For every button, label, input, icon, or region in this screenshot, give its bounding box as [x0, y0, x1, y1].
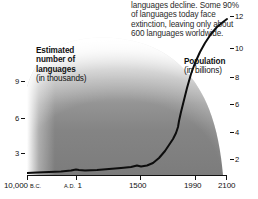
- left-axis-tick: 3: [15, 149, 26, 158]
- x-axis-tick: A.D. 1: [64, 181, 82, 190]
- population-label-line: Population: [184, 57, 225, 66]
- right-axis: 12 10 8 6 4 2: [227, 8, 258, 175]
- languages-population-chart: Even as population increases, languages …: [0, 0, 258, 199]
- population-series-label: Population (in billions): [184, 57, 225, 76]
- x-axis-tick: 2100: [218, 181, 235, 190]
- languages-label-line: languages: [36, 65, 86, 74]
- right-axis-tick: 10: [228, 44, 243, 53]
- right-axis-tick: 8: [228, 73, 239, 82]
- population-label-unit: (in billions): [184, 66, 225, 75]
- languages-label-unit: (in thousands): [36, 74, 86, 83]
- right-axis-tick: 12: [228, 12, 243, 21]
- languages-label-line: number of: [36, 55, 86, 64]
- x-axis-tick: 1990: [184, 181, 201, 190]
- left-axis: 9 6 3: [0, 27, 27, 175]
- left-axis-tick: 9: [15, 77, 26, 86]
- x-axis-tick: 1500: [129, 181, 146, 190]
- languages-series-label: Estimated number of languages (in thousa…: [36, 46, 86, 84]
- left-axis-tick: 6: [15, 114, 26, 123]
- right-axis-tick: 2: [228, 155, 239, 164]
- x-axis: 10,000 B.C. A.D. 1 1500 1990 2100: [0, 176, 258, 199]
- right-axis-tick: 6: [228, 100, 239, 109]
- languages-label-line: Estimated: [36, 46, 86, 55]
- x-axis-tick: 10,000 B.C.: [4, 181, 41, 190]
- right-axis-tick: 4: [228, 128, 239, 137]
